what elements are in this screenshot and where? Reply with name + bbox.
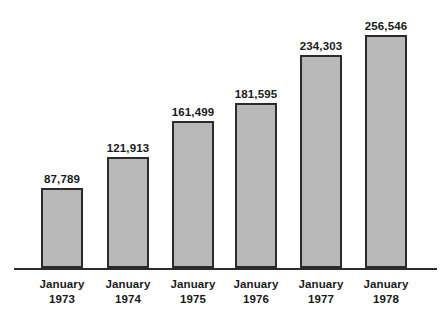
tick-month: January xyxy=(299,278,344,290)
tick-month: January xyxy=(234,278,279,290)
tick-year: 1977 xyxy=(299,292,344,307)
x-axis-tick-label: January 1973 xyxy=(40,277,85,307)
bar-rect[interactable] xyxy=(172,121,214,268)
tick-month: January xyxy=(171,278,216,290)
bar-value-label: 256,546 xyxy=(365,20,407,32)
tick-year: 1976 xyxy=(234,292,279,307)
x-axis-tick-label: January 1978 xyxy=(364,277,409,307)
bar-rect[interactable] xyxy=(235,103,277,268)
bar-value-label: 121,913 xyxy=(107,142,149,154)
bar-group: 234,303 xyxy=(300,55,342,268)
tick-month: January xyxy=(40,278,85,290)
bar-value-label: 234,303 xyxy=(300,40,342,52)
tick-month: January xyxy=(106,278,151,290)
x-axis-tick-label: January 1974 xyxy=(106,277,151,307)
x-axis-tick-label: January 1977 xyxy=(299,277,344,307)
tick-year: 1973 xyxy=(40,292,85,307)
bar-rect[interactable] xyxy=(41,188,83,268)
bar-value-label: 161,499 xyxy=(172,106,214,118)
x-axis-tick-label: January 1976 xyxy=(234,277,279,307)
bar-group: 161,499 xyxy=(172,121,214,268)
bar-value-label: 181,595 xyxy=(235,88,277,100)
bar-chart: 87,789 121,913 161,499 181,595 234,303 2… xyxy=(0,0,446,316)
plot-area: 87,789 121,913 161,499 181,595 234,303 2… xyxy=(0,0,446,268)
tick-year: 1975 xyxy=(171,292,216,307)
bar-rect[interactable] xyxy=(107,157,149,268)
tick-year: 1974 xyxy=(106,292,151,307)
tick-year: 1978 xyxy=(364,292,409,307)
bar-rect[interactable] xyxy=(365,35,407,268)
x-axis-tick-label: January 1975 xyxy=(171,277,216,307)
bar-value-label: 87,789 xyxy=(44,173,80,185)
x-axis-line xyxy=(14,268,437,270)
bar-group: 87,789 xyxy=(41,188,83,268)
bar-group: 256,546 xyxy=(365,35,407,268)
bar-group: 181,595 xyxy=(235,103,277,268)
tick-month: January xyxy=(364,278,409,290)
bar-group: 121,913 xyxy=(107,157,149,268)
bar-rect[interactable] xyxy=(300,55,342,268)
